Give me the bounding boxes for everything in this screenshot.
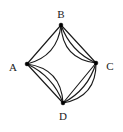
vertex-label-d: D (59, 110, 67, 122)
vertex-label-c: C (106, 60, 113, 72)
vertex-label-b: B (57, 8, 64, 20)
edge-a-b (27, 25, 61, 64)
vertex-label-a: A (9, 61, 17, 73)
graph-canvas: ABCD (0, 0, 123, 132)
vertex-c (94, 61, 98, 65)
vertex-a (25, 62, 29, 66)
edge-layer (27, 25, 96, 103)
graph-figure: ABCD (0, 0, 123, 132)
vertex-d (61, 101, 65, 105)
vertex-b (59, 23, 63, 27)
